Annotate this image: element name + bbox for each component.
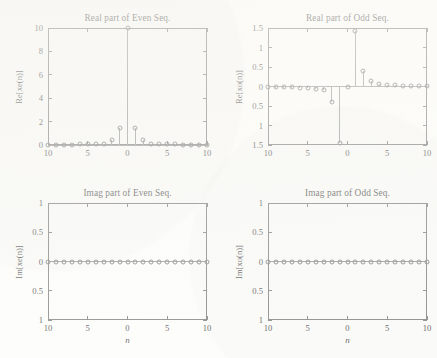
data-point-marker <box>425 84 430 89</box>
x-tick-mark <box>427 141 428 145</box>
data-point-marker <box>289 259 294 264</box>
x-tick-mark <box>87 316 88 320</box>
data-point-marker <box>46 142 51 147</box>
x-tick-label: 10 <box>203 323 212 333</box>
data-point-marker <box>266 259 271 264</box>
data-point-marker <box>273 259 278 264</box>
y-tick-mark <box>48 28 52 29</box>
x-tick-mark <box>347 316 348 320</box>
data-point-marker <box>321 259 326 264</box>
y-tick-label: 1.5 <box>252 23 263 33</box>
plot-title: Real part of Odd Seq. <box>268 13 427 23</box>
x-tick-label: 10 <box>423 148 432 158</box>
x-tick-label: 10 <box>44 148 53 158</box>
data-point-marker <box>329 259 334 264</box>
y-tick-mark <box>203 74 207 75</box>
data-point-marker <box>393 83 398 88</box>
x-tick-mark <box>387 28 388 32</box>
y-tick-mark <box>48 203 52 204</box>
data-point-marker <box>149 259 154 264</box>
y-tick-mark <box>268 28 272 29</box>
y-tick-label: 0.5 <box>252 227 263 237</box>
y-tick-label: 4 <box>39 93 43 103</box>
data-point-marker <box>77 259 82 264</box>
x-tick-mark <box>87 28 88 32</box>
data-point-marker <box>409 83 414 88</box>
y-tick-label: 0.5 <box>32 227 43 237</box>
data-point-marker <box>417 84 422 89</box>
data-point-marker <box>329 100 334 105</box>
data-point-marker <box>197 142 202 147</box>
y-tick-mark <box>48 121 52 122</box>
data-point-marker <box>385 259 390 264</box>
x-tick-mark <box>167 28 168 32</box>
x-axis-label: n <box>48 335 207 345</box>
data-point-marker <box>61 259 66 264</box>
x-tick-mark <box>48 203 49 207</box>
y-axis-label: Im[xe(n)] <box>14 245 24 278</box>
y-axis-label: Re[xo(n)] <box>234 70 244 104</box>
x-tick-label: 5 <box>306 148 310 158</box>
y-tick-mark <box>423 47 427 48</box>
x-tick-mark <box>307 141 308 145</box>
data-point-marker <box>313 259 318 264</box>
data-point-marker <box>69 142 74 147</box>
x-tick-label: 10 <box>423 323 432 333</box>
y-tick-label: 10 <box>34 23 43 33</box>
x-tick-label: 0 <box>125 323 129 333</box>
data-point-marker <box>117 259 122 264</box>
data-point-marker <box>189 142 194 147</box>
data-point-marker <box>337 141 342 146</box>
stem-line <box>119 128 120 145</box>
data-point-marker <box>141 259 146 264</box>
data-point-marker <box>369 79 374 84</box>
y-tick-mark <box>423 290 427 291</box>
y-tick-mark <box>48 98 52 99</box>
stem-line <box>339 87 340 144</box>
y-tick-mark <box>268 203 272 204</box>
plot-panel-real-even: Real part of Even Seq.02468101050510Re[x… <box>48 28 207 145</box>
data-point-marker <box>189 259 194 264</box>
y-tick-label: 1 <box>259 121 263 131</box>
x-tick-label: 0 <box>345 323 349 333</box>
data-point-marker <box>305 259 310 264</box>
x-tick-mark <box>347 203 348 207</box>
y-tick-label: 1.5 <box>252 140 263 150</box>
x-tick-mark <box>387 316 388 320</box>
x-tick-mark <box>268 141 269 145</box>
y-tick-label: 0 <box>39 140 43 150</box>
data-point-marker <box>345 259 350 264</box>
data-point-marker <box>85 142 90 147</box>
data-point-marker <box>46 259 51 264</box>
data-point-marker <box>93 259 98 264</box>
data-point-marker <box>313 86 318 91</box>
data-point-marker <box>205 259 210 264</box>
plot-panel-imag-odd: Imag part of Odd Seq.10.500.511050510Im[… <box>268 203 427 320</box>
y-tick-label: 0 <box>259 82 263 92</box>
data-point-marker <box>181 259 186 264</box>
data-point-marker <box>377 259 382 264</box>
data-point-marker <box>425 259 430 264</box>
y-axis-label: Im[xo(n)] <box>234 245 244 279</box>
y-tick-mark <box>268 125 272 126</box>
y-tick-mark <box>268 290 272 291</box>
data-point-marker <box>133 126 138 131</box>
x-tick-label: 5 <box>165 148 169 158</box>
data-point-marker <box>385 82 390 87</box>
data-point-marker <box>157 142 162 147</box>
data-point-marker <box>401 259 406 264</box>
y-tick-label: 0 <box>259 257 263 267</box>
data-point-marker <box>337 259 342 264</box>
data-point-marker <box>157 259 162 264</box>
data-point-marker <box>289 85 294 90</box>
y-tick-mark <box>423 125 427 126</box>
y-tick-mark <box>423 106 427 107</box>
y-tick-mark <box>268 320 272 321</box>
x-tick-label: 0 <box>345 148 349 158</box>
y-tick-label: 8 <box>39 46 43 56</box>
data-point-marker <box>61 142 66 147</box>
x-tick-label: 5 <box>306 323 310 333</box>
data-point-marker <box>377 82 382 87</box>
data-point-marker <box>273 84 278 89</box>
x-tick-mark <box>207 316 208 320</box>
